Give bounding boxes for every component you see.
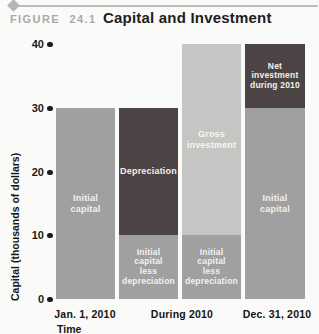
- bar-during-depreciation: Depreciation: [119, 108, 178, 235]
- bar-during-initial-less-depreciation: Initial capital less depreciation: [119, 235, 178, 299]
- y-tick-label: 30: [22, 102, 44, 114]
- tick-bullet-icon: [47, 106, 53, 112]
- tick-bullet-icon: [47, 233, 53, 239]
- segment-label: Initial capital: [260, 193, 290, 214]
- bar-dec31-net-investment: Net investment during 2010: [245, 44, 305, 108]
- figure-title: Capital and Investment: [103, 9, 272, 26]
- tick-bullet-icon: [47, 170, 53, 176]
- y-tick-label: 10: [22, 229, 44, 241]
- bar-during-gross-investment: Gross investment: [182, 44, 241, 235]
- x-label-jan-1-2010: Jan. 1, 2010: [30, 308, 140, 320]
- figure-24-1-capital-and-investment: FIGURE 24.1 Capital and Investment Capit…: [0, 0, 319, 334]
- y-axis-title: Capital (thousands of dollars): [9, 156, 23, 301]
- segment-label: Initial capital less depreciation: [122, 248, 175, 286]
- x-label-dec-31-2010: Dec. 31, 2010: [222, 308, 319, 320]
- segment-label: Initial capital less depreciation: [185, 248, 238, 286]
- bar-dec31-initial-capital: Initial capital: [245, 108, 305, 299]
- y-tick-label: 0: [22, 293, 44, 305]
- segment-label: Net investment during 2010: [250, 62, 300, 91]
- segment-label: Gross investment: [187, 129, 237, 150]
- tick-bullet-icon: [47, 42, 53, 48]
- bar-jan1-initial-capital: Initial capital: [56, 108, 115, 299]
- x-axis-title: Time: [57, 323, 81, 334]
- tick-bullet-icon: [47, 297, 53, 303]
- figure-number-label: FIGURE 24.1: [10, 13, 96, 25]
- x-label-during-2010: During 2010: [127, 308, 237, 320]
- top-rule-line: [15, 5, 318, 7]
- diamond-bullet-icon: [7, 0, 20, 12]
- y-tick-label: 40: [22, 38, 44, 50]
- y-tick-label: 20: [22, 166, 44, 178]
- segment-label: Depreciation: [120, 166, 177, 177]
- bar-during-initial-less-depreciation-2: Initial capital less depreciation: [182, 235, 241, 299]
- segment-label: Initial capital: [71, 193, 101, 214]
